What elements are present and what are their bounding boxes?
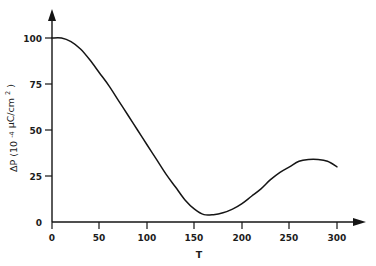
- y-tick-label-25: 25: [29, 172, 42, 182]
- x-axis-title: T: [196, 249, 203, 260]
- y-tick-label-75: 75: [29, 80, 42, 90]
- y-axis-title-units-exponent: 2: [4, 91, 12, 95]
- data-series-curve: [52, 38, 337, 215]
- x-tick-label-0: 0: [49, 233, 55, 243]
- y-axis-title-units: μC/cm: [5, 98, 16, 128]
- y-axis-title-open: (10: [8, 141, 19, 157]
- y-tick-label-100: 100: [23, 34, 42, 44]
- y-axis-title-symbol: ΔP: [8, 159, 19, 171]
- y-axis-title-exponent: -4: [8, 131, 16, 137]
- chart-plot-area: 100 75 50 25 0 0 50 100 150 200 250 300 …: [0, 0, 376, 266]
- y-axis-title: ΔP (10 -4 μC/cm 2 ): [1, 84, 19, 172]
- x-tick-label-50: 50: [93, 233, 106, 243]
- y-axis-arrow-icon: [48, 9, 56, 21]
- svg-text:ΔP (10: ΔP (10 -4 μC/cm 2 ): [1, 84, 19, 172]
- x-tick-label-250: 250: [280, 233, 299, 243]
- y-tick-label-50: 50: [29, 126, 42, 136]
- y-axis-title-close: ): [5, 84, 16, 88]
- x-tick-label-100: 100: [138, 233, 157, 243]
- x-tick-label-300: 300: [328, 233, 347, 243]
- x-axis-arrow-icon: [353, 218, 366, 226]
- chart-container: 100 75 50 25 0 0 50 100 150 200 250 300 …: [0, 0, 376, 266]
- x-tick-label-200: 200: [233, 233, 252, 243]
- x-tick-label-150: 150: [185, 233, 204, 243]
- y-tick-label-0: 0: [36, 218, 42, 228]
